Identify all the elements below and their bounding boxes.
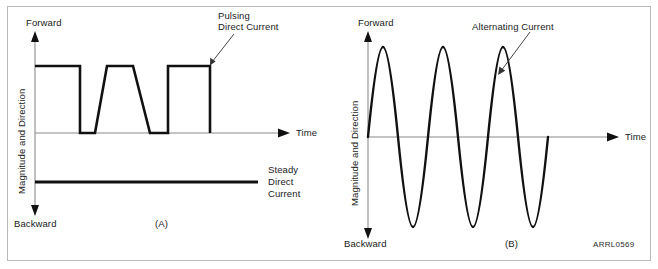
panel-a-y-axis-title: Magnitude and Direction: [16, 89, 28, 194]
panel-a-backward-label: Backward: [14, 218, 57, 230]
panel-a-annotation-pulsing-line1: Pulsing: [218, 10, 250, 22]
panel-b-time-label: Time: [625, 131, 646, 143]
panel-a-y-axis-arrow-up: [31, 31, 39, 42]
panel-b-y-axis-title: Magnitude and Direction: [349, 101, 361, 206]
panel-a-annotation-pulsing-line2: Direct Current: [218, 21, 279, 33]
figure-identifier: ARRL0569: [593, 239, 635, 251]
panel-a-pulsing-direct-current: Forward Backward Magnitude and Direction…: [0, 0, 330, 269]
panel-b-forward-label: Forward: [358, 17, 394, 29]
panel-b-y-axis-arrow-up: [364, 31, 372, 42]
panel-b-x-axis-arrow: [607, 133, 619, 142]
panel-a-annotation-steady-line2: Direct: [268, 176, 293, 188]
panel-a-annotation-steady-line3: Current: [268, 188, 300, 200]
panel-a-label: (A): [155, 218, 168, 230]
figure-pulsing-dc-and-ac: Forward Backward Magnitude and Direction…: [0, 0, 658, 269]
panel-b-alternating-current: Forward Backward Magnitude and Direction…: [330, 0, 658, 269]
panel-a-waveform-pulsing: [35, 66, 210, 133]
panel-a-time-label: Time: [296, 127, 317, 139]
panel-a-annotation-steady-line1: Steady: [268, 164, 298, 176]
panel-a-forward-label: Forward: [26, 17, 62, 29]
panel-b-label: (B): [505, 238, 518, 250]
panel-a-x-axis-arrow: [278, 129, 290, 138]
panel-b-backward-label: Backward: [344, 238, 387, 250]
panel-a-y-axis-arrow-down: [31, 205, 39, 216]
panel-b-plot: [330, 0, 658, 269]
panel-b-annotation-leader-arrow: [498, 67, 505, 75]
panel-b-annotation-alternating: Alternating Current: [472, 21, 554, 33]
panel-a-annotation-leader: [212, 34, 234, 62]
